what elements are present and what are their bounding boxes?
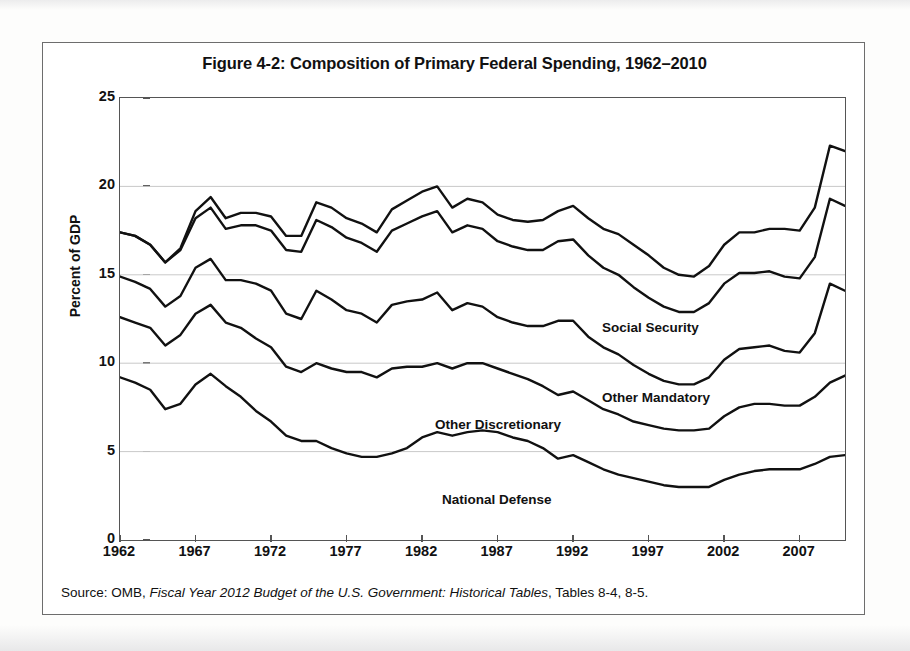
gridlines [120,186,845,451]
plot-area: MedicareSocial SecurityOther MandatoryOt… [119,97,846,541]
x-tick-label: 2002 [693,543,753,559]
series-line-other-mandatory [120,259,845,385]
y-tick-label: 5 [81,442,115,458]
y-tick-label: 10 [81,353,115,369]
x-tick-label: 1982 [391,543,451,559]
scan-edge-top [0,0,910,10]
series-annotation-national-defense: National Defense [442,492,552,507]
chart-svg [120,98,845,540]
series-annotation-social-security: Social Security [602,320,699,335]
figure-frame: Figure 4-2: Composition of Primary Feder… [42,42,865,615]
scanned-page: Figure 4-2: Composition of Primary Feder… [0,0,910,651]
x-axis-tick-labels: 1962196719721977198219871992199720022007 [119,543,844,567]
x-tick-mark [270,535,272,542]
series-line-other-discretionary [120,305,845,431]
x-tick-label: 1962 [89,543,149,559]
series-annotation-other-mandatory: Other Mandatory [602,390,710,405]
x-tick-label: 1977 [316,543,376,559]
x-tick-label: 2007 [769,543,829,559]
x-tick-label: 1967 [165,543,225,559]
x-tick-mark [799,535,801,542]
series-annotation-other-discretionary: Other Discretionary [435,417,561,432]
source-note: Source: OMB, Fiscal Year 2012 Budget of … [61,585,648,600]
scan-edge-bottom [0,625,910,651]
series-line-medicare [120,146,845,277]
source-suffix: , Tables 8-4, 8-5. [548,585,648,600]
x-tick-mark [421,535,423,542]
y-tick-label: 15 [81,265,115,281]
x-tick-mark [346,535,348,542]
y-tick-label: 25 [81,88,115,104]
y-axis-tick-labels: 0510152025 [71,97,115,539]
source-title: Fiscal Year 2012 Budget of the U.S. Gove… [150,585,548,600]
x-tick-mark [497,535,499,542]
x-tick-label: 1997 [618,543,678,559]
x-tick-mark [195,535,197,542]
x-tick-mark [723,535,725,542]
source-prefix: Source: OMB, [61,585,150,600]
series-line-social-security [120,199,845,312]
x-tick-mark [572,535,574,542]
x-tick-label: 1972 [240,543,300,559]
x-tick-mark [119,535,121,542]
figure-title: Figure 4-2: Composition of Primary Feder… [43,54,866,73]
x-tick-label: 1992 [542,543,602,559]
series-lines [120,146,845,487]
x-tick-label: 1987 [467,543,527,559]
x-tick-mark [648,535,650,542]
y-tick-label: 20 [81,176,115,192]
